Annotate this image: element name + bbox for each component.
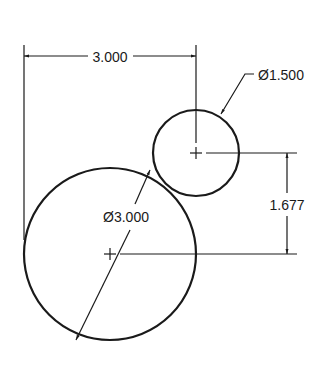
small-diameter-label: Ø1.500 (258, 67, 304, 83)
large-diameter-line (76, 170, 150, 340)
horizontal-dimension-label: 3.000 (92, 49, 127, 65)
small-circle-center-mark (190, 147, 202, 159)
large-diameter-label: Ø3.000 (103, 209, 149, 225)
technical-drawing: 3.000 1.677 Ø1.500 Ø3.000 (0, 0, 327, 372)
large-circle-center-mark (104, 248, 116, 260)
small-diameter-leader (221, 74, 254, 114)
vertical-dimension-label: 1.677 (269, 197, 304, 213)
